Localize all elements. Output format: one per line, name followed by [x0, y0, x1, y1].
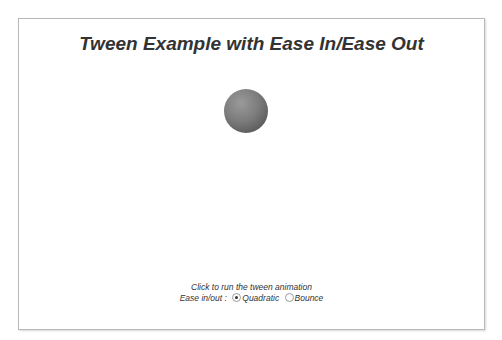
ease-option-bounce[interactable]: Bounce — [282, 293, 324, 303]
chart-frame: Tween Example with Ease In/Ease Out Clic… — [18, 18, 485, 330]
ease-label: Ease in/out : — [180, 293, 227, 303]
radio-quadratic[interactable] — [232, 293, 241, 302]
animated-ball[interactable] — [224, 89, 268, 133]
ease-selector: Ease in/out : Quadratic Bounce — [19, 293, 484, 303]
quadratic-label[interactable]: Quadratic — [242, 293, 279, 303]
ease-option-quadratic[interactable]: Quadratic — [229, 293, 281, 303]
chart-title: Tween Example with Ease In/Ease Out — [19, 33, 484, 55]
radio-bounce[interactable] — [285, 293, 294, 302]
bounce-label[interactable]: Bounce — [295, 293, 324, 303]
instruction-caption[interactable]: Click to run the tween animation — [19, 282, 484, 292]
